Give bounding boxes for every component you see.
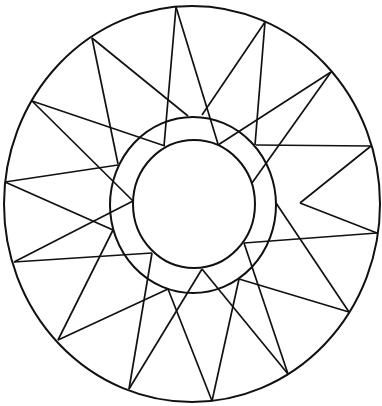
star-pattern-diagram	[0, 0, 382, 406]
star-line	[256, 145, 371, 146]
star-line	[255, 22, 265, 145]
star-line	[176, 7, 218, 144]
star-line	[164, 7, 176, 146]
star-lines	[5, 7, 377, 401]
star-line	[244, 233, 377, 243]
inner-circle	[133, 140, 255, 268]
star-line	[5, 165, 118, 182]
star-line	[300, 203, 377, 233]
star-line	[32, 101, 133, 201]
star-line	[14, 201, 133, 262]
star-line	[58, 230, 113, 340]
star-line	[276, 203, 349, 312]
star-line	[202, 22, 265, 115]
star-line	[58, 289, 168, 340]
star-line	[244, 243, 288, 374]
star-line	[5, 182, 113, 230]
star-line	[14, 253, 152, 262]
star-line	[218, 72, 331, 145]
star-line	[252, 72, 331, 183]
star-line	[168, 289, 212, 401]
star-line	[239, 279, 349, 312]
star-line	[300, 146, 371, 203]
star-line	[32, 101, 165, 146]
outer-circle	[4, 6, 380, 402]
star-line	[202, 269, 288, 374]
